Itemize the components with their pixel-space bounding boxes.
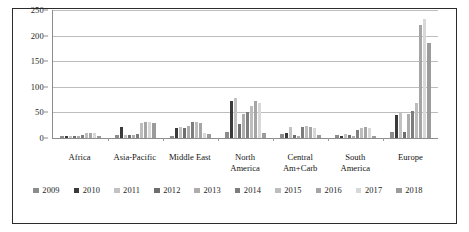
bar [191, 122, 194, 138]
legend-swatch-icon [235, 188, 241, 194]
legend-item: 2012 [154, 186, 180, 195]
legend-item: 2014 [235, 186, 261, 195]
x-axis-category-label: Africa [52, 152, 107, 173]
x-axis-category-line: North [217, 152, 272, 163]
bar [390, 132, 393, 138]
bar [399, 113, 402, 138]
bar [344, 134, 347, 138]
bar [372, 136, 375, 138]
y-axis-tick-label: 250 [31, 5, 44, 15]
x-axis-category-line: Middle East [162, 152, 217, 163]
bar [69, 136, 72, 138]
bar [179, 127, 182, 138]
bar [395, 115, 398, 138]
legend-item: 2010 [74, 186, 100, 195]
bar [60, 136, 63, 138]
bar [203, 133, 206, 138]
x-axis-category-label: Middle East [162, 152, 217, 173]
legend-swatch-icon [316, 188, 322, 194]
bar [289, 127, 292, 138]
x-axis-category-label: Asia-Pacific [107, 152, 162, 173]
chart-figure: 050100150200250 AfricaAsia-PacificMiddle… [0, 0, 469, 232]
x-axis-category-line: America [217, 163, 272, 174]
bar [152, 123, 155, 138]
bar-group [108, 10, 163, 138]
bar [132, 135, 135, 138]
bar [97, 136, 100, 138]
x-axis-category-line: Am+Carb [273, 163, 328, 174]
y-axis-tick-mark [44, 112, 48, 113]
legend-item: 2013 [194, 186, 220, 195]
bar [246, 112, 249, 138]
chart-legend: 2009201020112012201320142015201620172018 [18, 186, 438, 195]
legend-swatch-icon [74, 188, 80, 194]
bar [77, 136, 80, 138]
x-axis-category-label: CentralAm+Carb [273, 152, 328, 173]
bar [262, 133, 265, 138]
legend-label: 2017 [365, 186, 382, 195]
legend-label: 2015 [284, 186, 301, 195]
legend-item: 2011 [114, 186, 140, 195]
bar-group [273, 10, 328, 138]
bar [356, 130, 359, 138]
legend-item: 2018 [396, 186, 422, 195]
bar [238, 124, 241, 138]
legend-label: 2011 [123, 186, 140, 195]
y-axis-tick-mark [44, 35, 48, 36]
legend-label: 2016 [325, 186, 342, 195]
bar [120, 127, 123, 138]
legend-swatch-icon [33, 188, 39, 194]
bar [73, 136, 76, 138]
bar [335, 135, 338, 138]
x-axis-category-label: NorthAmerica [217, 152, 272, 173]
x-axis-labels: AfricaAsia-PacificMiddle EastNorthAmeric… [52, 152, 438, 173]
bar [293, 135, 296, 138]
bar [199, 123, 202, 138]
bar [187, 126, 190, 138]
legend-item: 2017 [356, 186, 382, 195]
bar [254, 101, 257, 138]
legend-swatch-icon [396, 188, 402, 194]
legend-label: 2014 [244, 186, 261, 195]
bar [93, 133, 96, 138]
bar [348, 135, 351, 138]
bar [360, 128, 363, 138]
y-axis: 050100150200250 [18, 10, 48, 138]
bar [280, 134, 283, 138]
bar [340, 136, 343, 138]
y-axis-tick-mark [44, 10, 48, 11]
plot-area [52, 10, 438, 139]
x-axis-category-line: America [328, 163, 383, 174]
bar [317, 135, 320, 138]
bar [305, 126, 308, 138]
bar [128, 135, 131, 138]
bar [301, 127, 304, 138]
y-axis-tick-label: 50 [35, 107, 44, 117]
legend-label: 2018 [405, 186, 422, 195]
plot-area-wrapper: 050100150200250 [18, 10, 438, 150]
bar [285, 133, 288, 138]
y-axis-tick-mark [44, 138, 48, 139]
bar [407, 114, 410, 138]
bar [136, 134, 139, 138]
bar [309, 127, 312, 138]
legend-swatch-icon [194, 188, 200, 194]
y-axis-tick-mark [44, 61, 48, 62]
legend-swatch-icon [356, 188, 362, 194]
y-axis-tick-mark [44, 86, 48, 87]
y-axis-tick-label: 200 [31, 31, 44, 41]
x-axis-category-line: Asia-Pacific [107, 152, 162, 163]
bar [313, 128, 316, 138]
legend-swatch-icon [154, 188, 160, 194]
bar [297, 136, 300, 138]
x-axis-category-line: South [328, 152, 383, 163]
legend-swatch-icon [114, 188, 120, 194]
legend-label: 2009 [42, 186, 59, 195]
bar [144, 122, 147, 138]
bar [65, 136, 68, 138]
bar [225, 132, 228, 138]
bar [234, 98, 237, 138]
bar [124, 135, 127, 138]
bar [89, 133, 92, 138]
bar [81, 135, 84, 138]
